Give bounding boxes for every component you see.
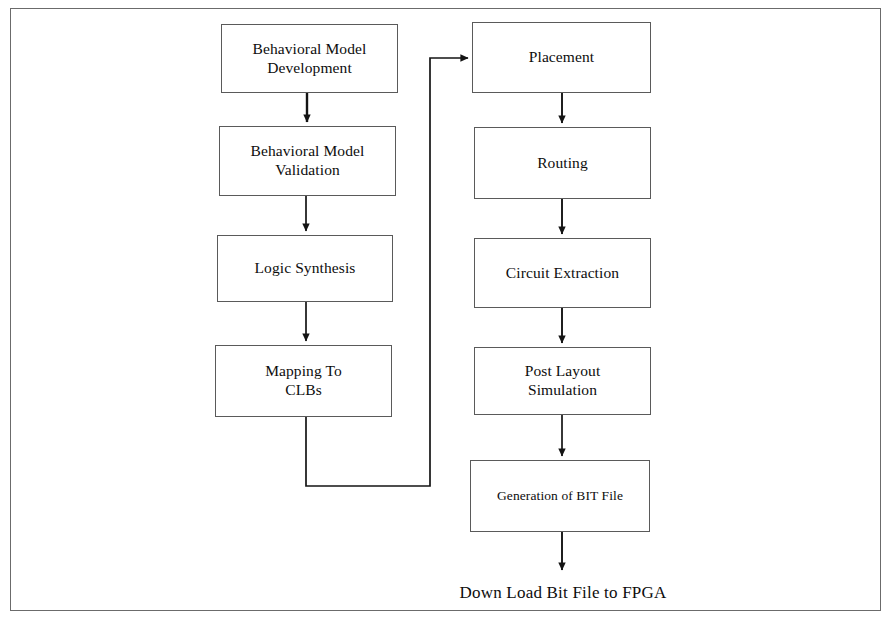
node-post-layout-simulation[interactable]: Post Layout Simulation bbox=[474, 347, 651, 415]
label-down-load-bit-file-to-fpga: Down Load Bit File to FPGA bbox=[393, 583, 733, 603]
node-label: Behavioral Model Development bbox=[249, 40, 371, 78]
node-label: Post Layout Simulation bbox=[521, 362, 605, 400]
node-label: Mapping To CLBs bbox=[261, 362, 346, 400]
node-behavioral-model-development[interactable]: Behavioral Model Development bbox=[221, 24, 398, 93]
node-generation-of-bit-file[interactable]: Generation of BIT File bbox=[470, 460, 650, 532]
free-label-text: Down Load Bit File to FPGA bbox=[460, 583, 667, 602]
connector-layer bbox=[0, 0, 890, 622]
node-mapping-to-clbs[interactable]: Mapping To CLBs bbox=[215, 345, 392, 417]
node-label: Placement bbox=[525, 48, 598, 67]
flowchart-diagram: Behavioral Model Development Behavioral … bbox=[0, 0, 890, 622]
node-label: Circuit Extraction bbox=[502, 264, 623, 283]
node-label: Generation of BIT File bbox=[493, 488, 627, 504]
node-routing[interactable]: Routing bbox=[474, 127, 651, 199]
node-label: Logic Synthesis bbox=[251, 259, 360, 278]
node-placement[interactable]: Placement bbox=[472, 22, 651, 93]
node-logic-synthesis[interactable]: Logic Synthesis bbox=[217, 235, 393, 302]
node-label: Behavioral Model Validation bbox=[247, 142, 369, 180]
node-circuit-extraction[interactable]: Circuit Extraction bbox=[474, 238, 651, 308]
node-label: Routing bbox=[533, 154, 592, 173]
node-behavioral-model-validation[interactable]: Behavioral Model Validation bbox=[219, 126, 396, 196]
